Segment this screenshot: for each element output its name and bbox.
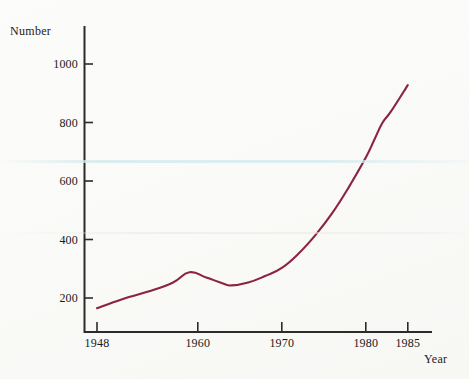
x-tick-label: 1970 [269,336,294,351]
line-chart: Number Year 2004006008001000194819601970… [0,0,469,379]
x-axis-ticks [97,322,408,332]
y-tick-label: 400 [59,232,78,247]
x-tick-label: 1960 [185,336,210,351]
y-tick-label: 800 [59,115,78,130]
y-tick-label: 600 [59,174,78,189]
x-tick-label: 1980 [353,336,378,351]
x-tick-label: 1985 [395,336,420,351]
x-tick-label: 1948 [85,336,110,351]
data-series-line [97,85,408,308]
y-tick-label: 200 [59,291,78,306]
y-axis-title: Number [10,24,51,39]
y-tick-label: 1000 [53,57,78,72]
x-axis-title: Year [424,352,447,367]
